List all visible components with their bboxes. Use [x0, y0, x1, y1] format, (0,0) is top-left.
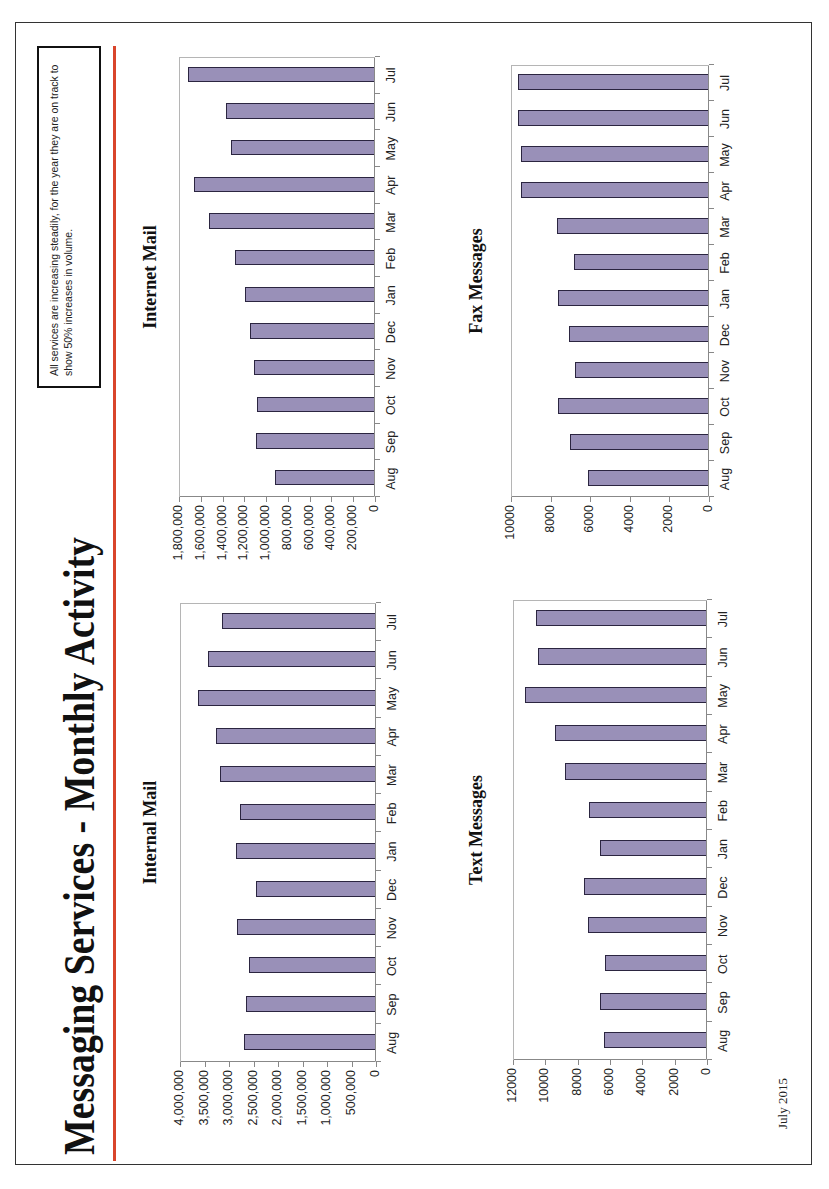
x-category-label: Apr [385, 718, 399, 756]
bar-jul [188, 67, 374, 82]
y-tick-label: 8000 [570, 1068, 584, 1150]
y-tick [352, 1062, 353, 1067]
x-category-label: Jan [716, 830, 730, 868]
bar-mar [209, 213, 374, 228]
x-tick [707, 676, 712, 677]
x-tick [375, 56, 380, 57]
bar-apr [521, 182, 708, 197]
bar-feb [240, 804, 375, 820]
x-tick [375, 166, 380, 167]
bar-sep [246, 996, 375, 1012]
y-tick [578, 1060, 579, 1065]
bar-aug [604, 1032, 706, 1048]
bar-oct [249, 957, 375, 973]
bar-may [231, 140, 375, 155]
bar-feb [589, 802, 706, 818]
x-tick [707, 752, 712, 753]
y-tick-label: 2,500,000 [246, 1070, 260, 1152]
y-tick [205, 1062, 206, 1067]
bar-dec [250, 323, 374, 338]
x-tick [707, 867, 712, 868]
y-tick-label: 3,000,000 [221, 1070, 235, 1152]
y-tick [201, 497, 202, 502]
x-tick [375, 239, 380, 240]
x-category-label: Jul [384, 57, 398, 94]
x-tick [376, 755, 381, 756]
y-tick-label: 600,000 [302, 505, 316, 587]
x-category-label: Aug [716, 1022, 730, 1060]
chart-title: Text Messages [466, 600, 487, 1060]
bar-dec [569, 326, 708, 341]
plot-area [179, 57, 375, 497]
bar-may [525, 687, 706, 703]
y-tick-label: 1,000,000 [319, 1070, 333, 1152]
x-axis-line [375, 604, 376, 1061]
bar-dec [256, 881, 375, 897]
x-category-label: Nov [718, 353, 732, 389]
x-tick [707, 829, 712, 830]
x-tick [709, 244, 714, 245]
x-tick [375, 423, 380, 424]
x-tick [709, 388, 714, 389]
y-tick-label: 0 [699, 1068, 713, 1150]
summary-callout: All services are increasing steadily, fo… [37, 46, 101, 388]
bar-aug [244, 1034, 375, 1050]
y-tick [310, 497, 311, 502]
y-tick-label: 3,500,000 [197, 1070, 211, 1152]
x-tick [709, 208, 714, 209]
x-category-label: Jun [384, 94, 398, 131]
title-underline-rule [113, 46, 116, 1161]
x-category-label: Sep [384, 424, 398, 461]
chart-title: Fax Messages [466, 65, 487, 497]
bar-aug [588, 470, 708, 485]
x-category-label: Mar [385, 756, 399, 794]
x-category-label: Sep [385, 986, 399, 1024]
x-category-label: Mar [384, 204, 398, 241]
chart-title: Internal Mail [140, 603, 161, 1062]
bar-jul [536, 610, 706, 626]
y-tick [331, 497, 332, 502]
x-tick [375, 276, 380, 277]
x-category-label: Jan [718, 281, 732, 317]
y-tick [254, 1062, 255, 1067]
bar-jan [558, 290, 708, 305]
y-tick [244, 497, 245, 502]
footer-date: July 2015 [775, 1078, 791, 1129]
x-category-label: Nov [716, 907, 730, 945]
y-axis-line [180, 496, 374, 497]
bar-may [521, 146, 708, 161]
x-tick [707, 944, 712, 945]
y-tick-label: 1,600,000 [193, 505, 207, 587]
x-tick [375, 459, 380, 460]
x-axis-line [374, 58, 375, 496]
page-title: Messaging Services - Monthly Activity [52, 536, 108, 1155]
y-tick-label: 2000 [667, 1068, 681, 1150]
x-tick [709, 172, 714, 173]
x-category-label: Jan [385, 833, 399, 871]
x-tick [375, 129, 380, 130]
chart-title: Internet Mail [140, 57, 161, 497]
bar-oct [257, 397, 374, 412]
y-tick-label: 1,500,000 [295, 1070, 309, 1152]
bar-jun [538, 648, 706, 664]
x-tick [707, 637, 712, 638]
bar-mar [565, 763, 706, 779]
x-category-label: Dec [384, 314, 398, 351]
y-tick-label: 200,000 [345, 505, 359, 587]
y-tick [669, 497, 670, 502]
x-category-label: Feb [718, 245, 732, 281]
y-tick-label: 400,000 [323, 505, 337, 587]
x-tick [376, 870, 381, 871]
x-category-label: Jun [718, 101, 732, 137]
bar-sep [600, 993, 706, 1009]
x-category-label: Mar [716, 753, 730, 791]
bar-dec [584, 878, 706, 894]
x-tick [709, 64, 714, 65]
bar-nov [575, 362, 708, 377]
x-tick [707, 906, 712, 907]
x-category-label: Apr [384, 167, 398, 204]
x-category-label: May [385, 680, 399, 718]
y-tick-label: 2,000,000 [270, 1070, 284, 1152]
x-tick [707, 599, 712, 600]
x-category-label: Aug [385, 1024, 399, 1062]
